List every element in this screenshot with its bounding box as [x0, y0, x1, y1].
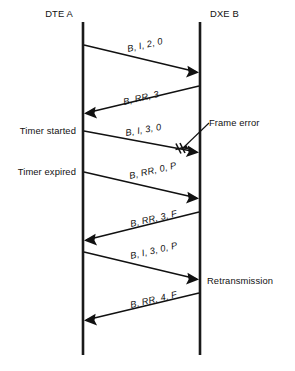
message-6-label: B, I, 3, 0, P	[129, 240, 179, 261]
message-2: B, RR, 3	[84, 86, 199, 118]
message-1: B, I, 2, 0	[84, 36, 199, 77]
message-2-arrowhead	[84, 107, 97, 119]
message-5: B, RR, 3, F	[84, 208, 199, 245]
message-1-arrowhead	[186, 66, 199, 78]
annotation-timer-expired: Timer expired	[18, 166, 76, 177]
message-7-arrowhead	[84, 314, 97, 326]
message-3-arrowhead	[186, 146, 199, 157]
participant-label-dte-a: DTE A	[45, 8, 73, 19]
participant-label-dxe-b: DXE B	[210, 8, 239, 19]
message-4-label: B, RR, 0, P	[128, 160, 178, 181]
annotation-frame-error-group: Frame error	[182, 117, 259, 150]
sequence-diagram-canvas: DTE A DXE B B, I, 2, 0 B, RR, 3 B, I, 3,…	[0, 0, 295, 371]
message-6-arrowhead	[186, 273, 199, 285]
message-7: B, RR, 4, F	[84, 289, 199, 325]
message-1-label: B, I, 2, 0	[126, 36, 164, 54]
sequence-diagram: DTE A DXE B B, I, 2, 0 B, RR, 3 B, I, 3,…	[0, 0, 295, 371]
message-5-label: B, RR, 3, F	[129, 208, 179, 229]
message-3-label: B, I, 3, 0	[125, 122, 163, 138]
message-5-arrowhead	[84, 234, 97, 246]
message-6: B, I, 3, 0, P	[84, 240, 199, 284]
message-4-arrowhead	[186, 192, 199, 204]
frame-error-leader-line	[184, 123, 209, 147]
message-7-label: B, RR, 4, F	[129, 289, 179, 310]
message-3: B, I, 3, 0	[84, 122, 199, 157]
annotation-retransmission: Retransmission	[207, 275, 273, 286]
message-2-label: B, RR, 3	[122, 89, 160, 107]
annotation-frame-error: Frame error	[209, 117, 260, 128]
message-4: B, RR, 0, P	[84, 160, 199, 203]
annotation-timer-started: Timer started	[20, 125, 76, 136]
